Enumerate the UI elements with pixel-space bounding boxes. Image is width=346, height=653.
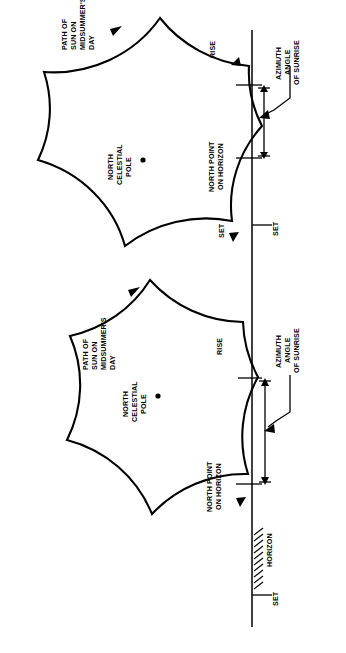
upper-pole-label-line2: CELESTIAL (116, 144, 124, 185)
lower-azimuth-line3: OF SUNRISE (293, 328, 301, 373)
upper-azimuth-label: AZIMUTH ANGLE OF SUNRISE (275, 40, 301, 85)
lower-pole-label-line3: POLE (140, 394, 148, 414)
lower-path-label: PATH OF SUN ON MIDSUMMER'S DAY (82, 317, 117, 370)
lower-set-label: SET (272, 591, 280, 606)
lower-rise-label: RISE (216, 338, 224, 355)
upper-path-direction-arrow-3 (229, 232, 239, 242)
sun-path-diagram: PATH OF SUN ON MIDSUMMER'S DAY NORTH CEL… (0, 0, 346, 653)
lower-path-label-line4: DAY (109, 355, 117, 370)
upper-path-direction-arrow-1 (110, 26, 122, 36)
astronomy-figure: PATH OF SUN ON MIDSUMMER'S DAY NORTH CEL… (0, 0, 346, 653)
upper-rise-label: RISE (209, 41, 217, 58)
lower-path-label-line1: PATH OF (82, 338, 90, 370)
upper-path-label-line4: DAY (88, 35, 96, 50)
upper-set-horizon-label: SET (218, 223, 226, 238)
upper-azimuth-line3: OF SUNRISE (293, 40, 301, 85)
upper-pole-label-line1: NORTH (107, 154, 115, 180)
upper-azimuth-line2: ANGLE (284, 49, 292, 75)
lower-horizon-label: HORIZON (266, 533, 274, 567)
horizon-hatching (254, 528, 263, 589)
lower-pole-label: NORTH CELESTIAL POLE (122, 381, 148, 422)
lower-azimuth-label: AZIMUTH ANGLE OF SUNRISE (275, 328, 301, 373)
upper-north-point-line1: NORTH POINT (208, 141, 216, 192)
lower-north-point-label: NORTH POINT ON HORIZON (206, 461, 223, 512)
upper-sun-path-circle (38, 18, 262, 246)
lower-azimuth-line2: ANGLE (284, 337, 292, 363)
upper-pole-label-line3: POLE (125, 157, 133, 177)
lower-north-point-line2: ON HORIZON (215, 463, 223, 510)
upper-azimuth-line1: AZIMUTH (275, 47, 283, 80)
upper-path-label-line1: PATH OF (61, 18, 69, 50)
lower-path-direction-arrow-2 (236, 497, 246, 507)
upper-pole-label: NORTH CELESTIAL POLE (107, 144, 133, 185)
lower-sun-path-circle (67, 280, 258, 514)
upper-path-label: PATH OF SUN ON MIDSUMMER'S DAY (61, 0, 96, 50)
lower-azimuth-line1: AZIMUTH (275, 335, 283, 368)
upper-path-label-line3: MIDSUMMER'S (79, 0, 87, 50)
upper-north-point-label: NORTH POINT ON HORIZON (208, 141, 225, 192)
upper-set-curve-label: SET (272, 221, 280, 236)
lower-azimuth-leader (264, 375, 290, 433)
upper-path-label-line2: SUN ON (70, 22, 78, 51)
upper-path-direction-arrow-2 (231, 57, 241, 66)
lower-pole-label-line1: NORTH (122, 391, 130, 417)
lower-path-label-line2: SUN ON (91, 342, 99, 371)
lower-path-label-line3: MIDSUMMER'S (100, 317, 108, 370)
upper-north-point-line2: ON HORIZON (217, 143, 225, 190)
upper-north-celestial-pole-marker (140, 157, 145, 162)
lower-north-point-line1: NORTH POINT (206, 461, 214, 512)
lower-pole-label-line2: CELESTIAL (131, 381, 139, 422)
lower-north-celestial-pole-marker (155, 393, 160, 398)
